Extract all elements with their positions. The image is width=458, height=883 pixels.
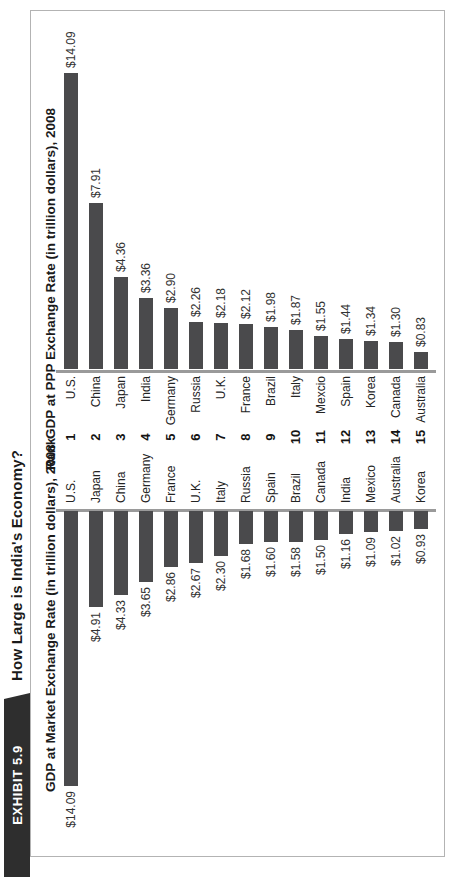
market-country-label: Russia: [240, 466, 253, 503]
ppp-bar: [289, 330, 303, 369]
rank-value: 13: [364, 420, 378, 454]
chart-row: $1.50Canada11Mexcio$1.55: [309, 11, 334, 856]
chart-row: $0.93Korea15Australia$0.83: [409, 11, 434, 856]
ppp-value-label: $1.34: [365, 306, 378, 336]
market-bar: [414, 511, 428, 529]
market-value-label: $4.91: [90, 612, 103, 642]
market-country-label: Spain: [265, 472, 278, 503]
rank-value: 10: [289, 420, 303, 454]
ppp-country-label: France: [240, 376, 253, 413]
chart-rows: $14.09U.S.1U.S.$14.09$4.91Japan2China$7.…: [31, 11, 444, 856]
market-country-label: France: [165, 466, 178, 503]
rank-value: 12: [339, 420, 353, 454]
market-bar: [189, 511, 203, 563]
ppp-bar: [314, 336, 328, 369]
market-value-label: $3.65: [140, 587, 153, 617]
ppp-country-label: Italy: [290, 376, 303, 398]
ppp-country-label: Spain: [340, 376, 353, 407]
rank-value: 9: [264, 420, 278, 454]
chart-row: $14.09U.S.1U.S.$14.09: [59, 11, 84, 856]
ppp-bar: [114, 277, 128, 369]
ppp-value-label: $0.83: [415, 317, 428, 347]
ppp-bar: [164, 308, 178, 369]
market-country-label: U.K.: [190, 480, 203, 503]
ppp-bar: [364, 341, 378, 369]
ppp-value-label: $2.18: [215, 288, 228, 318]
ppp-country-label: India: [140, 376, 153, 402]
market-country-label: Korea: [415, 471, 428, 503]
market-bar: [314, 511, 328, 540]
rank-value: 8: [239, 420, 253, 454]
rank-value: 4: [139, 420, 153, 454]
ppp-country-label: Russia: [190, 376, 203, 413]
page: EXHIBIT 5.9 How Large is India's Economy…: [0, 0, 458, 883]
ppp-value-label: $2.12: [240, 289, 253, 319]
ppp-value-label: $1.55: [315, 301, 328, 331]
exhibit-label: EXHIBIT 5.9: [10, 745, 25, 825]
chart-row: $1.02Australia14Canada$1.30: [384, 11, 409, 856]
rank-value: 6: [189, 420, 203, 454]
market-country-label: China: [115, 472, 128, 503]
chart-row: $1.16India12Spain$1.44: [334, 11, 359, 856]
market-bar: [214, 511, 228, 556]
ppp-country-label: Mexcio: [315, 376, 328, 414]
ppp-country-label: Brazil: [265, 376, 278, 406]
ppp-country-label: China: [90, 376, 103, 407]
rank-value: 11: [314, 420, 328, 454]
market-value-label: $1.50: [315, 545, 328, 575]
ppp-bar: [64, 73, 78, 369]
market-country-label: Brazil: [290, 473, 303, 503]
market-country-label: Italy: [215, 481, 228, 503]
market-country-label: U.S.: [65, 480, 78, 503]
ppp-bar: [264, 327, 278, 369]
market-country-label: Canada: [315, 461, 328, 503]
market-value-label: $1.02: [390, 536, 403, 566]
market-bar: [89, 511, 103, 607]
market-value-label: $1.09: [365, 537, 378, 567]
exhibit-tab: EXHIBIT 5.9: [4, 693, 30, 877]
ppp-country-label: U.K.: [215, 376, 228, 399]
market-value-label: $0.93: [415, 534, 428, 564]
ppp-country-label: U.S.: [65, 376, 78, 399]
figure-box: GDP at Market Exchange Rate (in trillion…: [30, 10, 445, 857]
chart-row: $1.58Brazil10Italy$1.87: [284, 11, 309, 856]
market-country-label: Japan: [90, 470, 103, 503]
ppp-bar: [139, 298, 153, 369]
chart-row: $2.86France5Germany$2.90: [159, 11, 184, 856]
market-value-label: $1.16: [340, 539, 353, 569]
chart-row: $1.60Spain9Brazil$1.98: [259, 11, 284, 856]
market-value-label: $2.67: [190, 568, 203, 598]
market-bar: [64, 511, 78, 786]
market-bar: [264, 511, 278, 542]
ppp-bar: [239, 324, 253, 369]
rank-value: 7: [214, 420, 228, 454]
market-country-label: Germany: [140, 454, 153, 503]
market-bar: [139, 511, 153, 582]
ppp-country-label: Korea: [365, 376, 378, 408]
ppp-country-label: Australia: [415, 376, 428, 423]
rank-value: 3: [114, 420, 128, 454]
exhibit-title: How Large is India's Economy?: [8, 450, 25, 681]
chart-row: $4.91Japan2China$7.91: [84, 11, 109, 856]
market-country-label: Mexico: [365, 465, 378, 503]
ppp-country-label: Canada: [390, 376, 403, 418]
ppp-value-label: $7.91: [90, 168, 103, 198]
ppp-bar: [389, 342, 403, 369]
rotated-exhibit-figure: EXHIBIT 5.9 How Large is India's Economy…: [0, 0, 458, 883]
market-value-label: $2.30: [215, 561, 228, 591]
market-bar: [339, 511, 353, 534]
market-bar: [364, 511, 378, 532]
chart-row: $2.30Italy7U.K.$2.18: [209, 11, 234, 856]
ppp-country-label: Germany: [165, 376, 178, 425]
chart-row: $1.09Mexico13Korea$1.34: [359, 11, 384, 856]
market-value-label: $1.68: [240, 549, 253, 579]
market-country-label: India: [340, 477, 353, 503]
market-value-label: $4.33: [115, 600, 128, 630]
ppp-value-label: $1.30: [390, 307, 403, 337]
ppp-bar: [414, 352, 428, 369]
market-bar: [289, 511, 303, 542]
market-bar: [164, 511, 178, 567]
ppp-value-label: $4.36: [115, 242, 128, 272]
ppp-value-label: $2.90: [165, 273, 178, 303]
market-country-label: Australia: [390, 456, 403, 503]
